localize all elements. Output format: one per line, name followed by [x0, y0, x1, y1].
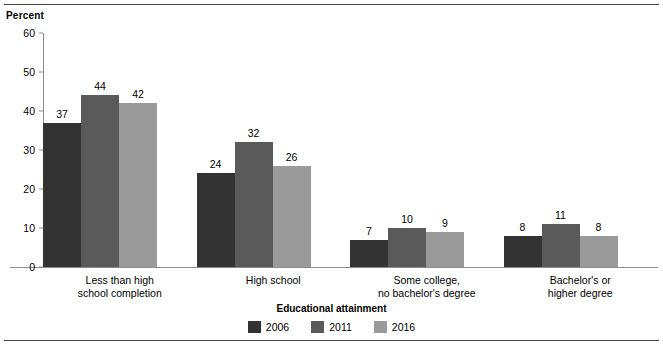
x-axis-category-label: High school: [197, 274, 351, 287]
legend-label: 2016: [392, 321, 415, 333]
legend-swatch-icon: [374, 321, 387, 333]
bar-2011[interactable]: [235, 142, 273, 267]
bar-value-label: 11: [542, 209, 580, 221]
legend-item-2006[interactable]: 2006: [248, 321, 289, 333]
bar-value-label: 7: [350, 225, 388, 237]
bar-2011[interactable]: [388, 228, 426, 267]
x-axis-category-label: Bachelor's or higher degree: [504, 274, 658, 299]
plot-area: 0102030405060 374442Less than high schoo…: [43, 33, 657, 267]
bar-slot: 11: [542, 33, 580, 267]
bar-slot: 26: [273, 33, 311, 267]
bar-2016[interactable]: [580, 236, 618, 267]
bar-2006[interactable]: [197, 173, 235, 267]
bar-2011[interactable]: [542, 224, 580, 267]
bar-slot: 9: [426, 33, 464, 267]
bar-group-bars: 7109: [350, 33, 504, 267]
bar-group: 8118Bachelor's or higher degree: [504, 33, 658, 267]
bar-value-label: 32: [235, 127, 273, 139]
bar-value-label: 26: [273, 151, 311, 163]
bar-chart-figure: Percent 0102030405060 374442Less than hi…: [0, 0, 663, 347]
legend-swatch-icon: [311, 321, 324, 333]
bar-group-bars: 374442: [43, 33, 197, 267]
legend-label: 2011: [329, 321, 352, 333]
bar-value-label: 42: [119, 88, 157, 100]
bar-2006[interactable]: [504, 236, 542, 267]
legend-label: 2006: [266, 321, 289, 333]
top-divider-rule: [4, 4, 659, 5]
legend-item-2016[interactable]: 2016: [374, 321, 415, 333]
bar-slot: 8: [580, 33, 618, 267]
bar-value-label: 8: [580, 221, 618, 233]
bar-value-label: 37: [43, 108, 81, 120]
bar-2006[interactable]: [350, 240, 388, 267]
bar-2016[interactable]: [119, 103, 157, 267]
legend-item-2011[interactable]: 2011: [311, 321, 352, 333]
bar-2016[interactable]: [273, 166, 311, 267]
bar-value-label: 8: [504, 221, 542, 233]
x-axis-category-label: Less than high school completion: [43, 274, 197, 299]
bar-group-bars: 243226: [197, 33, 351, 267]
bar-group: 7109Some college, no bachelor's degree: [350, 33, 504, 267]
bar-slot: 44: [81, 33, 119, 267]
bottom-divider-rule: [4, 340, 659, 341]
bar-2016[interactable]: [426, 232, 464, 267]
bar-slot: 8: [504, 33, 542, 267]
legend-swatch-icon: [248, 321, 261, 333]
bar-group: 374442Less than high school completion: [43, 33, 197, 267]
bar-value-label: 9: [426, 217, 464, 229]
bar-2006[interactable]: [43, 123, 81, 267]
bar-slot: 7: [350, 33, 388, 267]
bar-slot: 10: [388, 33, 426, 267]
chart-legend: 200620112016: [0, 321, 663, 333]
bar-slot: 37: [43, 33, 81, 267]
bar-value-label: 44: [81, 80, 119, 92]
bar-value-label: 24: [197, 158, 235, 170]
x-axis-line: [10, 267, 658, 268]
bar-group: 243226High school: [197, 33, 351, 267]
bar-slot: 42: [119, 33, 157, 267]
x-axis-title: Educational attainment: [0, 303, 663, 314]
bar-groups: 374442Less than high school completion24…: [43, 33, 657, 267]
bar-slot: 32: [235, 33, 273, 267]
y-axis-unit-label: Percent: [6, 10, 44, 21]
bar-slot: 24: [197, 33, 235, 267]
bar-2011[interactable]: [81, 95, 119, 267]
bar-group-bars: 8118: [504, 33, 658, 267]
bar-value-label: 10: [388, 213, 426, 225]
x-axis-category-label: Some college, no bachelor's degree: [350, 274, 504, 299]
